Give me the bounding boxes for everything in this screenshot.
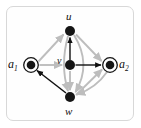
node-a2-core[interactable]: [106, 61, 115, 70]
node-label-u: u: [66, 11, 72, 22]
node-a1-core[interactable]: [27, 61, 36, 70]
figure-page: u w v a1 a2: [0, 0, 141, 128]
edge-u-to-w-curve-right: [74, 35, 83, 92]
node-label-a2: a2: [119, 58, 129, 73]
nodes: [24, 26, 118, 102]
node-label-a2-subscript: 2: [125, 64, 129, 73]
edge-w-to-a1: [37, 71, 66, 94]
node-label-w: w: [65, 106, 72, 117]
node-label-a1-subscript: 1: [14, 64, 18, 73]
node-v[interactable]: [65, 60, 75, 70]
node-u[interactable]: [65, 26, 75, 36]
node-label-v: v: [57, 56, 61, 66]
node-w[interactable]: [65, 92, 75, 102]
node-label-a1: a1: [8, 58, 18, 73]
